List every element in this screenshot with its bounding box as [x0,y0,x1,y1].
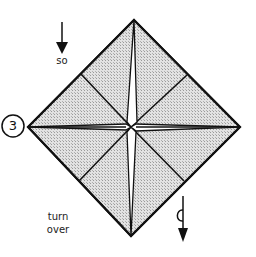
over-label: over [40,224,76,236]
turn-label: turn [40,211,76,223]
turn-over-arrow-icon [177,196,188,242]
down-arrow-icon [56,22,68,54]
so-label: so [52,55,72,67]
step-number: 3 [2,115,24,137]
origami-diagram [0,0,256,257]
